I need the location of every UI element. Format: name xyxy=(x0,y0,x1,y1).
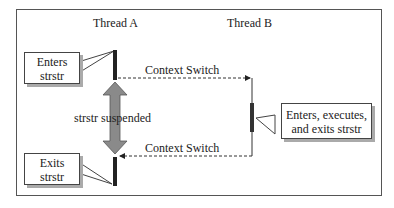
callout-exits-line2: strstr xyxy=(25,170,79,184)
callout-enters-line2: strstr xyxy=(25,69,79,83)
suspended-label: strstr suspended xyxy=(74,112,151,125)
callout-tail-exits xyxy=(78,163,112,184)
callout-thread-b: Enters, executes, and exits strstr xyxy=(281,103,372,139)
thread-a-bar-top xyxy=(113,50,117,80)
thread-a-label: Thread A xyxy=(93,17,138,30)
callout-exits-line1: Exits xyxy=(25,156,79,170)
callout-exits: Exits strstr xyxy=(24,153,80,185)
callout-tail-thread-b xyxy=(256,115,275,134)
thread-b-bar xyxy=(250,103,254,132)
thread-a-bar-bottom xyxy=(113,157,117,186)
callout-tail-enters xyxy=(78,51,114,72)
callout-enters: Enters strstr xyxy=(24,52,80,84)
context-switch-label-2: Context Switch xyxy=(145,142,219,155)
callout-thread-b-line2: and exits strstr xyxy=(282,122,371,136)
thread-b-label: Thread B xyxy=(227,17,272,30)
callout-enters-line1: Enters xyxy=(25,55,79,69)
context-switch-label-1: Context Switch xyxy=(145,64,219,77)
callout-thread-b-line1: Enters, executes, xyxy=(282,108,371,122)
